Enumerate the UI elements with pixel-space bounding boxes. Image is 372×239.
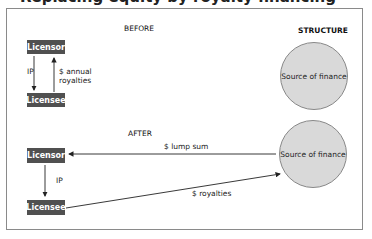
arrow-layer [0, 0, 372, 239]
royalties-arrow [66, 174, 280, 208]
